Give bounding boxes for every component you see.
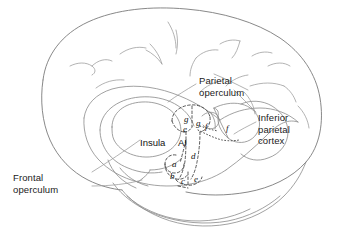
label-region-g-right: g [196,119,201,128]
label-region-g-left: g [184,115,189,124]
label-region-c: c [181,177,185,186]
label-region-f-inner: f [205,122,208,131]
label-frontal-operculum: Frontal operculum [13,172,58,195]
label-inferior-parietal-cortex: Inferior parietal cortex [258,112,290,147]
label-ai: AI [178,138,187,148]
label-region-e-upper: e [183,125,187,134]
temporal-lobe-outline [113,162,306,226]
cerebral-hemisphere-outline [42,8,322,195]
label-region-d: d [191,152,196,161]
label-insula: Insula [140,138,165,148]
label-region-e-lower: e [194,175,198,184]
label-region-a: a [172,160,177,169]
label-parietal-operculum: Parietal operculum [199,75,244,98]
label-region-b: b [170,172,175,181]
brain-diagram-figure: Parietal operculum Inferior parietal cor… [0,0,337,239]
label-region-f-outer: f [226,124,229,133]
